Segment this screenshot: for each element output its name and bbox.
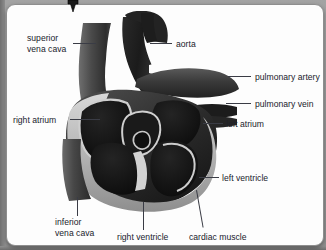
heart-diagram-screenshot: superior vena cava aorta pulmonary arter… <box>0 0 326 250</box>
valve-cusp <box>133 132 150 149</box>
down-arrow-cursor-icon <box>66 0 80 12</box>
leader-right-atrium <box>70 119 100 120</box>
leader-left-ventricle <box>199 177 219 178</box>
label-pulmonary-vein: pulmonary vein <box>255 99 314 110</box>
label-superior-vena-cava-line1: superior <box>27 33 58 43</box>
label-inferior-vena-cava: inferior vena cava <box>55 217 117 238</box>
leader-pulmonary-artery <box>228 76 251 77</box>
backdrop-left-edge <box>0 0 5 250</box>
leader-aorta <box>150 43 172 44</box>
leader-inferior-vena-cava <box>77 197 78 216</box>
label-pulmonary-artery: pulmonary artery <box>255 72 320 83</box>
label-cardiac-muscle: cardiac muscle <box>189 232 247 243</box>
label-right-ventricle: right ventricle <box>117 232 168 243</box>
label-left-ventricle: left ventricle <box>222 173 268 184</box>
label-inferior-vena-cava-line2: vena cava <box>55 228 94 238</box>
label-inferior-vena-cava-line1: inferior <box>55 217 81 227</box>
label-superior-vena-cava-line2: vena cava <box>27 44 66 54</box>
leader-left-atrium <box>203 123 223 124</box>
leader-pulmonary-vein <box>226 103 251 104</box>
label-left-atrium: left atrium <box>226 119 264 130</box>
leader-right-ventricle <box>143 202 144 230</box>
figure-card: superior vena cava aorta pulmonary arter… <box>6 4 324 246</box>
label-superior-vena-cava: superior vena cava <box>27 33 89 54</box>
backdrop-bottom-edge <box>0 246 326 250</box>
label-right-atrium: right atrium <box>13 115 56 126</box>
label-aorta: aorta <box>176 39 196 50</box>
